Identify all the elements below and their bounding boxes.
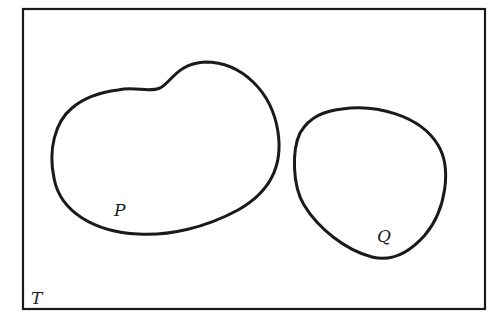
universal-set-label: T: [31, 290, 42, 307]
set-p-region: [52, 62, 279, 234]
universal-set-rectangle: [23, 9, 485, 309]
set-q-region: [294, 108, 445, 258]
set-q-label: Q: [377, 228, 391, 245]
diagram-canvas: [0, 0, 496, 334]
venn-diagram: P Q T: [0, 0, 496, 334]
set-p-label: P: [114, 202, 125, 219]
